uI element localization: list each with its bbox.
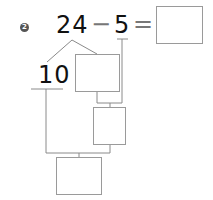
split-branch-lines — [47, 40, 97, 62]
connector-lines — [0, 0, 213, 200]
